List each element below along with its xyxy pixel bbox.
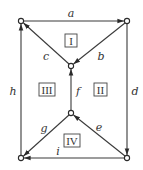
node-middle-bottom: [68, 110, 73, 115]
edge-label-a: a: [68, 7, 75, 20]
edge-label-g: g: [40, 122, 47, 135]
node-middle-top: [68, 63, 73, 68]
edge-label-b: b: [97, 50, 104, 63]
node-top-left: [18, 18, 23, 23]
edge-label-e: e: [96, 121, 103, 134]
region-label-III: III: [42, 84, 53, 96]
edge-label-d: d: [131, 85, 138, 98]
edge-label-h: h: [9, 85, 16, 98]
edge-label-c: c: [43, 50, 49, 63]
region-label-I: I: [69, 35, 73, 47]
node-bottom-right: [124, 155, 129, 160]
edge-label-f: f: [75, 85, 82, 98]
region-label-IV: IV: [66, 135, 78, 147]
edge-label-i: i: [56, 145, 60, 158]
graph-diagram: a b c d e f g h i I II III IV: [0, 0, 143, 170]
node-bottom-left: [18, 155, 23, 160]
node-top-right: [124, 18, 129, 23]
region-label-II: II: [97, 84, 105, 96]
